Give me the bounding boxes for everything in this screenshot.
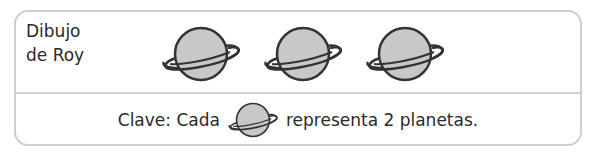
planet-pictures: [158, 24, 448, 84]
pictograph-box: Dibujo de Roy Clave: Cada representa 2 p…: [14, 10, 582, 146]
planet-with-ring-icon: [158, 24, 244, 84]
planet-with-ring-icon: [362, 24, 448, 84]
key-prefix: Clave: Cada: [118, 110, 220, 130]
key-row: Clave: Cada representa 2 planetas.: [16, 94, 580, 146]
key-suffix: representa 2 planetas.: [286, 110, 478, 130]
row-label-line1: Dibujo: [26, 19, 84, 43]
planet-with-ring-icon: [260, 24, 346, 84]
row-label-line2: de Roy: [26, 43, 84, 67]
planet-with-ring-icon: [224, 101, 282, 139]
row-label: Dibujo de Roy: [26, 19, 84, 67]
